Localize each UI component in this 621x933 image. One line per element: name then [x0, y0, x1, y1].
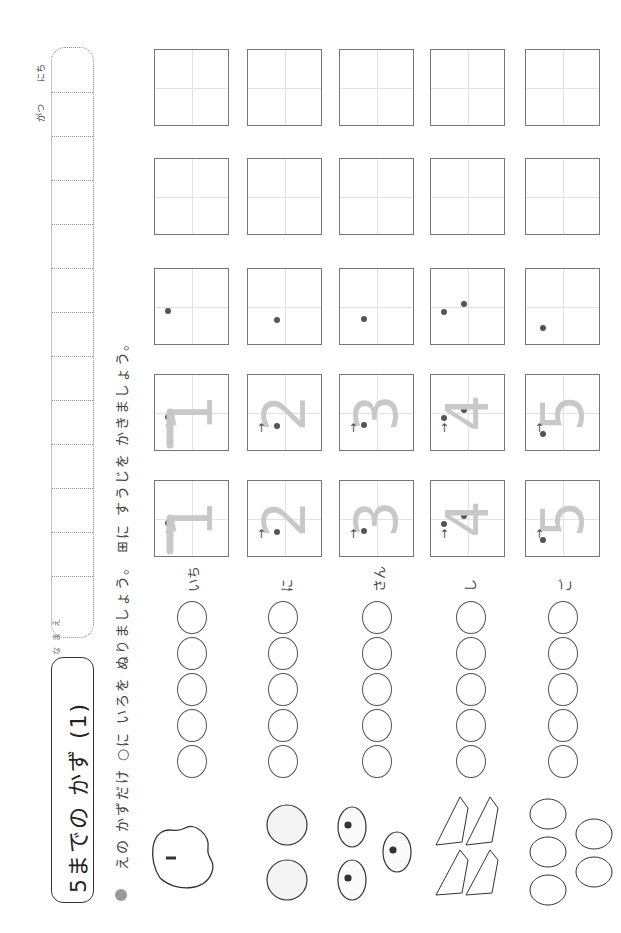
strawberry-icon	[530, 799, 612, 905]
fruit-illustrations	[0, 0, 621, 933]
apple-icon	[153, 826, 213, 887]
melon-icon	[267, 805, 307, 900]
orange-icon	[338, 807, 411, 900]
grapes-icon	[436, 797, 498, 895]
